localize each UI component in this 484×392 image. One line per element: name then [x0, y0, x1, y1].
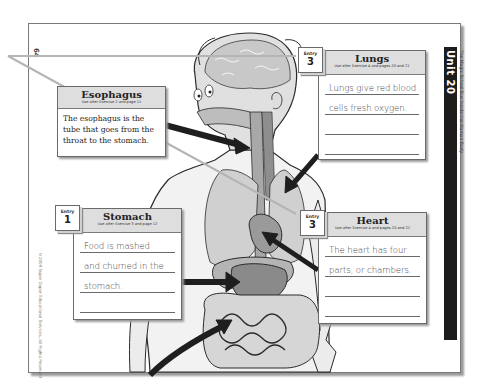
- esophagus-text: The esophagus is the tube that goes from…: [58, 109, 165, 150]
- lungs-entry-number: 3: [299, 56, 322, 67]
- lungs-subtitle: Use after Exercise 4 and pages 20 and 21: [319, 64, 425, 69]
- esophagus-subtitle: Use after Exercise 2 and page 11: [58, 100, 165, 105]
- lungs-line-3[interactable]: [325, 115, 419, 135]
- esophagus-card: Esophagus Use after Exercise 2 and page …: [57, 86, 166, 157]
- left-lung: [205, 170, 258, 267]
- ear: [272, 93, 282, 109]
- lungs-title: Lungs: [319, 53, 425, 64]
- stomach-line-1[interactable]: Food is mashed: [80, 233, 175, 253]
- lungs-card-header: Lungs Use after Exercise 4 and pages 20 …: [319, 51, 425, 75]
- stomach-line-4[interactable]: [80, 293, 175, 313]
- stomach-line-2-text: and churned in the: [84, 261, 164, 271]
- heart-entry-tag: Entry 3: [300, 210, 325, 236]
- lungs-entry-tag: Entry 3: [298, 47, 323, 73]
- heart-line-1[interactable]: The heart has four: [325, 237, 420, 257]
- esophagus-title: Esophagus: [58, 89, 165, 100]
- lungs-line-4[interactable]: [325, 135, 419, 155]
- stomach-entry-number: 1: [56, 214, 79, 225]
- copyright-notice: ©2009 Super Duper Educational Services, …: [38, 252, 43, 378]
- stomach-line-3-text: stomach.: [84, 281, 123, 291]
- lungs-line-1-text: Lungs give red blood: [329, 83, 416, 93]
- stomach-line-1-text: Food is mashed: [84, 241, 150, 251]
- heart-line-3[interactable]: [325, 277, 420, 297]
- unit-label: Unit 20: [445, 50, 456, 94]
- unit-subtitle: The Magic School Bus Inside the Human Bo…: [459, 50, 464, 153]
- lungs-line-2[interactable]: cells fresh oxygen.: [325, 95, 419, 115]
- stomach-entry-tag: Entry 1: [55, 205, 80, 231]
- heart-card: Heart Use after Exercise 4 and pages 20 …: [318, 212, 427, 324]
- heart-card-header: Heart Use after Exercise 4 and pages 20 …: [319, 213, 426, 237]
- heart-title: Heart: [319, 215, 426, 226]
- heart-line-2[interactable]: parts, or chambers.: [325, 257, 420, 277]
- stomach-card: Stomach Use after Exercise 3 and page 12…: [73, 208, 182, 320]
- lungs-line-1[interactable]: Lungs give red blood: [325, 75, 419, 95]
- stomach-title: Stomach: [74, 211, 181, 222]
- heart-line-4[interactable]: [325, 297, 420, 317]
- heart-entry-number: 3: [301, 219, 324, 230]
- stomach-subtitle: Use after Exercise 3 and page 12: [74, 222, 181, 227]
- stomach-card-header: Stomach Use after Exercise 3 and page 12: [74, 209, 181, 233]
- heart-subtitle: Use after Exercise 4 and pages 20 and 21: [319, 226, 426, 231]
- lungs-line-2-text: cells fresh oxygen.: [329, 103, 407, 113]
- stomach-line-2[interactable]: and churned in the: [80, 253, 175, 273]
- esophagus-card-header: Esophagus Use after Exercise 2 and page …: [58, 87, 165, 109]
- lungs-card: Lungs Use after Exercise 4 and pages 20 …: [318, 50, 426, 160]
- heart-line-2-text: parts, or chambers.: [329, 265, 411, 275]
- heart-line-1-text: The heart has four: [329, 245, 407, 255]
- stomach-line-3[interactable]: stomach.: [80, 273, 175, 293]
